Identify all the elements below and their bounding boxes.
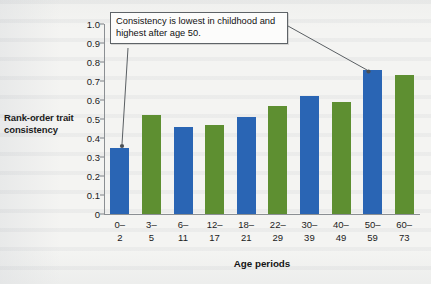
y-axis-tick-mark bbox=[100, 62, 104, 63]
y-axis-tick-label: 0.9 bbox=[87, 38, 100, 49]
y-axis-tick-label: 0.1 bbox=[87, 190, 100, 201]
bar-column bbox=[395, 24, 414, 214]
x-axis-tick-label: 40–49 bbox=[325, 219, 357, 244]
x-tick-line: 50– bbox=[357, 219, 389, 232]
bar-column bbox=[363, 24, 382, 214]
x-axis-tick-label: 3–5 bbox=[136, 219, 168, 244]
x-tick-line: 21 bbox=[230, 232, 262, 245]
x-tick-line: 39 bbox=[294, 232, 326, 245]
bar bbox=[268, 106, 287, 214]
y-axis-tick-mark bbox=[100, 214, 104, 215]
x-tick-line: 18– bbox=[230, 219, 262, 232]
x-axis-line bbox=[104, 214, 420, 215]
bar-column bbox=[205, 24, 224, 214]
bar bbox=[205, 125, 224, 214]
bar bbox=[237, 117, 256, 214]
x-tick-line: 11 bbox=[167, 232, 199, 245]
x-axis-tick-label: 18–21 bbox=[230, 219, 262, 244]
bar-chart: Rank-order trait consistency 1.00.90.80.… bbox=[0, 0, 431, 284]
y-axis-tick-mark bbox=[100, 100, 104, 101]
y-axis-tick-mark bbox=[100, 81, 104, 82]
x-tick-line: 3– bbox=[136, 219, 168, 232]
x-tick-line: 29 bbox=[262, 232, 294, 245]
x-axis-tick-label: 12–17 bbox=[199, 219, 231, 244]
y-axis-tick-mark bbox=[100, 195, 104, 196]
y-axis-tick-mark bbox=[100, 24, 104, 25]
x-axis-tick-labels: 0–23–56–1112–1718–2122–2930–3940–4950–59… bbox=[104, 219, 420, 255]
x-tick-line: 12– bbox=[199, 219, 231, 232]
bar-column bbox=[237, 24, 256, 214]
bar bbox=[142, 115, 161, 214]
bar-column bbox=[174, 24, 193, 214]
x-axis-tick-label: 30–39 bbox=[294, 219, 326, 244]
x-axis-tick-label: 6–11 bbox=[167, 219, 199, 244]
bar-column bbox=[332, 24, 351, 214]
y-axis-tick-label: 0.8 bbox=[87, 57, 100, 68]
y-axis-tick-mark bbox=[100, 43, 104, 44]
bar bbox=[363, 70, 382, 214]
y-axis-tick-label: 0.5 bbox=[87, 114, 100, 125]
bar bbox=[110, 148, 129, 215]
y-axis-tick-label: 0.4 bbox=[87, 133, 100, 144]
y-axis-tick-labels: 1.00.90.80.70.60.50.40.30.20.10 bbox=[74, 0, 100, 284]
x-tick-line: 2 bbox=[104, 232, 136, 245]
bar bbox=[395, 75, 414, 214]
bar-column bbox=[300, 24, 319, 214]
x-tick-line: 30– bbox=[294, 219, 326, 232]
y-axis-tick-label: 0.2 bbox=[87, 171, 100, 182]
y-axis-tick-mark bbox=[100, 176, 104, 177]
bar-column bbox=[142, 24, 161, 214]
x-axis-tick-label: 22–29 bbox=[262, 219, 294, 244]
x-tick-line: 59 bbox=[357, 232, 389, 245]
x-tick-line: 6– bbox=[167, 219, 199, 232]
x-tick-line: 17 bbox=[199, 232, 231, 245]
x-axis-title: Age periods bbox=[104, 258, 420, 269]
bar bbox=[332, 102, 351, 214]
y-axis-tick-label: 0.6 bbox=[87, 95, 100, 106]
y-axis-tick-mark bbox=[100, 138, 104, 139]
bar-series bbox=[104, 24, 420, 214]
x-tick-line: 73 bbox=[388, 232, 420, 245]
y-axis-tick-label: 0.7 bbox=[87, 76, 100, 87]
y-axis-tick-mark bbox=[100, 157, 104, 158]
x-tick-line: 5 bbox=[136, 232, 168, 245]
bar bbox=[174, 127, 193, 214]
bar-column bbox=[268, 24, 287, 214]
bar-column bbox=[110, 24, 129, 214]
x-axis-tick-label: 0–2 bbox=[104, 219, 136, 244]
callout-annotation: Consistency is lowest in childhood and h… bbox=[110, 12, 288, 44]
x-axis-tick-label: 50–59 bbox=[357, 219, 389, 244]
y-axis-tick-label: 1.0 bbox=[87, 19, 100, 30]
y-axis-tick-mark bbox=[100, 119, 104, 120]
bar bbox=[300, 96, 319, 214]
x-tick-line: 22– bbox=[262, 219, 294, 232]
y-axis-title: Rank-order trait consistency bbox=[4, 112, 78, 136]
y-axis-tick-label: 0.3 bbox=[87, 152, 100, 163]
x-tick-line: 60– bbox=[388, 219, 420, 232]
x-axis-tick-label: 60–73 bbox=[388, 219, 420, 244]
x-tick-line: 49 bbox=[325, 232, 357, 245]
x-tick-line: 0– bbox=[104, 219, 136, 232]
x-tick-line: 40– bbox=[325, 219, 357, 232]
